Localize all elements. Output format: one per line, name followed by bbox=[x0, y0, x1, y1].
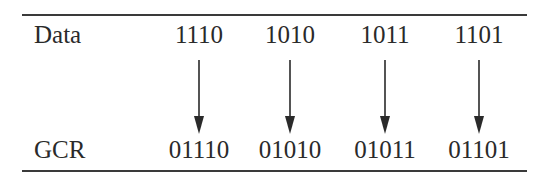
gcr-value: 01101 bbox=[448, 136, 510, 164]
gcr-value: 01011 bbox=[354, 136, 416, 164]
data-value: 1010 bbox=[265, 21, 315, 49]
gcr-value: 01010 bbox=[259, 136, 322, 164]
down-arrow-icon bbox=[378, 60, 392, 134]
data-value: 1011 bbox=[360, 21, 409, 49]
data-value: 1101 bbox=[454, 21, 503, 49]
gcr-row-label: GCR bbox=[34, 136, 85, 164]
top-rule bbox=[22, 14, 527, 16]
gcr-value: 01110 bbox=[169, 136, 230, 164]
data-row-label: Data bbox=[34, 21, 81, 49]
data-value: 1110 bbox=[175, 21, 223, 49]
down-arrow-icon bbox=[192, 60, 206, 134]
bottom-rule bbox=[22, 170, 527, 172]
down-arrow-icon bbox=[283, 60, 297, 134]
down-arrow-icon bbox=[472, 60, 486, 134]
